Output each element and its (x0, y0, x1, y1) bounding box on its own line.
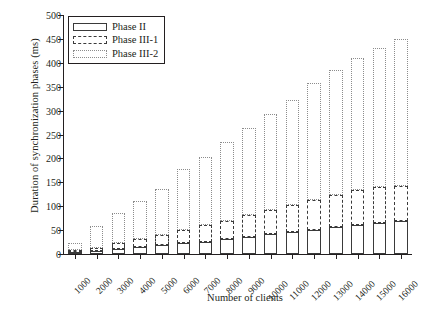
bar-segment-phase-iii-1-4000 (133, 239, 146, 247)
bar-segment-phase-ii-1000 (68, 252, 81, 254)
bar-segment-phase-iii-1-5000 (155, 235, 168, 246)
bar-segment-phase-ii-13000 (329, 227, 342, 254)
chart-legend: Phase IIPhase III-1Phase III-2 (68, 16, 165, 64)
bar-segment-phase-ii-8000 (220, 239, 233, 254)
bar-segment-phase-ii-3000 (112, 249, 125, 254)
y-axis-title: Duration of synchronization phases (ms) (29, 6, 40, 246)
bar-segment-phase-ii-9000 (242, 237, 255, 254)
x-tick-mark-15000 (379, 254, 380, 259)
x-tick-mark-12000 (314, 254, 315, 259)
y-tick-label: 400 (46, 57, 61, 68)
bar-segment-phase-iii-2-5000 (155, 189, 168, 235)
bar-segment-phase-iii-1-14000 (351, 190, 364, 225)
legend-swatch-p32 (73, 50, 107, 58)
bar-segment-phase-ii-6000 (177, 243, 190, 254)
bar-segment-phase-iii-1-11000 (286, 205, 299, 232)
legend-item-phase-iii-2: Phase III-2 (73, 47, 158, 60)
bar-6000 (177, 15, 190, 254)
bar-segment-phase-iii-2-9000 (242, 128, 255, 215)
y-tick-label: 250 (46, 129, 61, 140)
bar-segment-phase-iii-2-15000 (373, 48, 386, 187)
bar-segment-phase-iii-1-2000 (90, 248, 103, 251)
x-tick-mark-13000 (336, 254, 337, 259)
x-tick-mark-3000 (118, 254, 119, 259)
bar-segment-phase-iii-2-7000 (199, 157, 212, 225)
bar-segment-phase-ii-16000 (394, 221, 407, 254)
bar-segment-phase-iii-1-1000 (68, 250, 81, 252)
bar-segment-phase-iii-2-3000 (112, 213, 125, 243)
y-tick-label: 150 (46, 177, 61, 188)
bar-segment-phase-ii-7000 (199, 242, 212, 254)
bar-segment-phase-iii-2-4000 (133, 201, 146, 239)
bar-15000 (373, 15, 386, 254)
bar-10000 (264, 15, 277, 254)
bar-segment-phase-ii-11000 (286, 232, 299, 254)
bar-segment-phase-ii-15000 (373, 223, 386, 254)
bar-segment-phase-iii-1-12000 (307, 200, 320, 230)
legend-label: Phase III-2 (112, 47, 158, 60)
bar-segment-phase-iii-1-16000 (394, 186, 407, 220)
bar-segment-phase-iii-1-8000 (220, 221, 233, 240)
chart-figure: Duration of synchronization phases (ms) … (0, 0, 435, 317)
bar-9000 (242, 15, 255, 254)
bar-segment-phase-iii-1-15000 (373, 187, 386, 223)
bar-segment-phase-iii-1-13000 (329, 195, 342, 228)
bar-12000 (307, 15, 320, 254)
x-tick-mark-5000 (162, 254, 163, 259)
bar-segment-phase-ii-4000 (133, 247, 146, 254)
x-tick-mark-2000 (97, 254, 98, 259)
y-tick-label: 350 (46, 81, 61, 92)
bar-segment-phase-iii-1-10000 (264, 210, 277, 234)
bar-segment-phase-ii-14000 (351, 225, 364, 254)
y-tick-label: 50 (51, 225, 61, 236)
x-tick-mark-9000 (249, 254, 250, 259)
bar-segment-phase-iii-2-12000 (307, 83, 320, 200)
x-tick-mark-7000 (205, 254, 206, 259)
x-tick-mark-4000 (140, 254, 141, 259)
bar-segment-phase-iii-2-16000 (394, 39, 407, 186)
y-tick-label: 450 (46, 33, 61, 44)
bar-segment-phase-iii-2-2000 (90, 226, 103, 248)
y-tick-label: 500 (46, 10, 61, 21)
bar-16000 (394, 15, 407, 254)
bar-segment-phase-iii-1-7000 (199, 225, 212, 241)
y-tick-label: 300 (46, 105, 61, 116)
bar-14000 (351, 15, 364, 254)
bar-segment-phase-ii-12000 (307, 230, 320, 254)
bar-segment-phase-iii-2-8000 (220, 142, 233, 221)
x-tick-mark-10000 (271, 254, 272, 259)
bar-segment-phase-iii-1-3000 (112, 243, 125, 249)
bar-13000 (329, 15, 342, 254)
bar-segment-phase-ii-2000 (90, 251, 103, 254)
x-axis-title: Number of clients (0, 292, 435, 303)
bar-8000 (220, 15, 233, 254)
legend-label: Phase III-1 (112, 33, 158, 46)
y-tick-label: 200 (46, 153, 61, 164)
bar-segment-phase-iii-2-1000 (68, 243, 81, 249)
x-tick-mark-11000 (292, 254, 293, 259)
x-tick-mark-8000 (227, 254, 228, 259)
legend-item-phase-iii-1: Phase III-1 (73, 33, 158, 46)
x-tick-mark-16000 (401, 254, 402, 259)
x-tick-mark-6000 (184, 254, 185, 259)
x-tick-mark-14000 (358, 254, 359, 259)
bar-7000 (199, 15, 212, 254)
legend-label: Phase II (112, 20, 146, 33)
bar-segment-phase-iii-2-14000 (351, 58, 364, 190)
bar-segment-phase-iii-2-10000 (264, 114, 277, 210)
bar-segment-phase-iii-2-6000 (177, 169, 190, 230)
bar-segment-phase-ii-5000 (155, 245, 168, 254)
bar-segment-phase-iii-1-9000 (242, 215, 255, 237)
bar-11000 (286, 15, 299, 254)
legend-swatch-p31 (73, 36, 107, 44)
bar-segment-phase-iii-2-11000 (286, 100, 299, 205)
x-axis-spine (63, 254, 412, 255)
bar-segment-phase-iii-2-13000 (329, 70, 342, 194)
bar-segment-phase-iii-1-6000 (177, 230, 190, 243)
y-tick-label: 0 (56, 249, 61, 260)
y-tick-label: 100 (46, 201, 61, 212)
legend-item-phase-ii: Phase II (73, 20, 158, 33)
bar-segment-phase-ii-10000 (264, 234, 277, 254)
legend-swatch-p2 (73, 23, 107, 31)
x-tick-mark-1000 (75, 254, 76, 259)
